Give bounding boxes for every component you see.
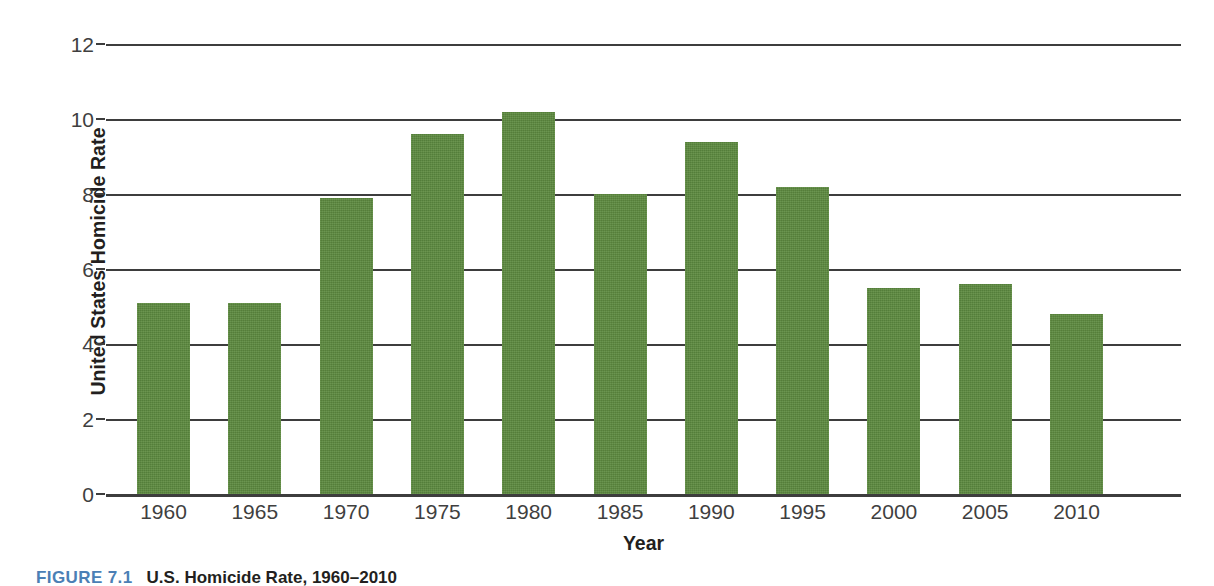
x-axis-tick-label: 2005 bbox=[945, 500, 1025, 523]
bar bbox=[502, 112, 555, 495]
x-axis-tick-label: 1980 bbox=[489, 500, 569, 523]
y-axis-tick-label: 8 bbox=[42, 184, 94, 205]
bar bbox=[685, 142, 738, 495]
bar bbox=[228, 303, 281, 494]
bar bbox=[867, 288, 920, 494]
y-axis-tick-label: 12 bbox=[42, 34, 94, 55]
y-axis-tick-label: 2 bbox=[42, 409, 94, 430]
y-axis-tick-label: 6 bbox=[42, 259, 94, 280]
y-axis-tick-label: 10 bbox=[42, 109, 94, 130]
bar bbox=[776, 187, 829, 495]
x-axis-tick-label: 1985 bbox=[580, 500, 660, 523]
bar bbox=[594, 194, 647, 494]
x-axis-tick-label: 1970 bbox=[306, 500, 386, 523]
figure-container: United States Homicide Rate 024681012 19… bbox=[0, 0, 1214, 586]
bar bbox=[1050, 314, 1103, 494]
x-axis-tick-label: 1960 bbox=[124, 500, 204, 523]
x-axis-tick-label: 1965 bbox=[215, 500, 295, 523]
x-axis-tick-label: 1975 bbox=[397, 500, 477, 523]
x-axis-tick-label: 2000 bbox=[854, 500, 934, 523]
bar bbox=[959, 284, 1012, 494]
bar bbox=[137, 303, 190, 494]
y-axis-tick-label: 0 bbox=[42, 484, 94, 505]
x-axis-line bbox=[106, 494, 1181, 497]
figure-caption-label: FIGURE 7.1 bbox=[36, 568, 133, 586]
bar bbox=[411, 134, 464, 494]
figure-caption-text: U.S. Homicide Rate, 1960–2010 bbox=[147, 568, 397, 586]
plot-area: 024681012 bbox=[106, 44, 1181, 494]
y-axis-tick-mark bbox=[96, 343, 105, 345]
x-axis-tick-label: 1990 bbox=[671, 500, 751, 523]
bar bbox=[320, 198, 373, 494]
x-axis-title: Year bbox=[106, 532, 1181, 555]
y-axis-tick-mark bbox=[96, 418, 105, 420]
y-axis-tick-mark bbox=[96, 118, 105, 120]
y-axis-tick-mark bbox=[96, 268, 105, 270]
x-axis-tick-labels: 1960196519701975198019851990199520002005… bbox=[106, 500, 1181, 530]
y-axis-tick-label: 4 bbox=[42, 334, 94, 355]
bars-group bbox=[106, 44, 1181, 494]
x-axis-tick-label: 2010 bbox=[1037, 500, 1117, 523]
figure-caption: FIGURE 7.1U.S. Homicide Rate, 1960–2010 bbox=[36, 568, 1136, 586]
y-axis-tick-mark bbox=[96, 43, 105, 45]
y-axis-tick-mark bbox=[96, 493, 105, 495]
y-axis-tick-mark bbox=[96, 193, 105, 195]
x-axis-tick-label: 1995 bbox=[763, 500, 843, 523]
